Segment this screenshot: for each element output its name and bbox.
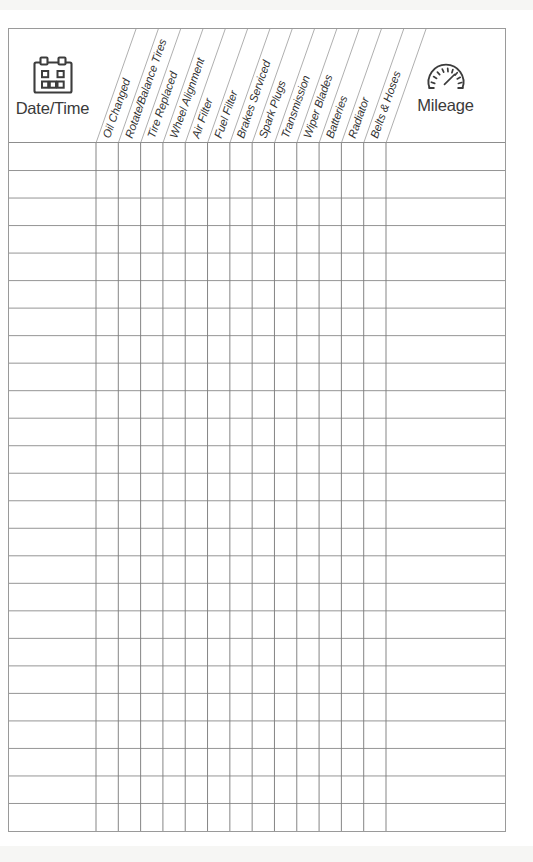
service-column-label: Batteries — [323, 94, 349, 140]
scan-artifact — [0, 846, 533, 862]
scan-artifact — [0, 0, 533, 10]
maintenance-log-table: Date/Time Oil ChangedRotate/Balance Tire… — [8, 28, 506, 832]
table-header-row: Date/Time Oil ChangedRotate/Balance Tire… — [9, 29, 505, 143]
service-column-headers: Oil ChangedRotate/Balance TiresTire Repl… — [96, 29, 386, 143]
gauge-icon — [424, 57, 468, 93]
printed-form-page: Date/Time Oil ChangedRotate/Balance Tire… — [0, 0, 533, 862]
column-header-mileage: Mileage — [386, 29, 505, 143]
slanted-header-graphic: Oil ChangedRotate/Balance TiresTire Repl… — [46, 29, 406, 143]
table-body — [9, 143, 505, 831]
column-header-mileage-label: Mileage — [417, 96, 473, 115]
log-grid — [9, 143, 505, 831]
